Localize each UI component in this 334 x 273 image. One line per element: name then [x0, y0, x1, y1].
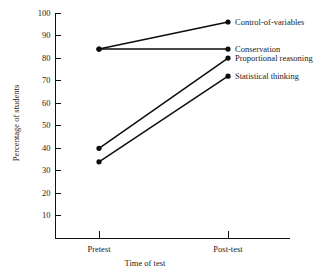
y-tick-label: 10 [0, 211, 51, 220]
line-chart: 102030405060708090100 PretestPost-test C… [0, 0, 334, 273]
data-point-marker [225, 56, 230, 61]
y-tick-label: 60 [0, 99, 51, 108]
series-lines [96, 19, 230, 164]
series-label: Control-of-variables [235, 18, 304, 27]
plot-area [0, 0, 334, 273]
data-point-marker [225, 74, 230, 79]
y-tick-label: 80 [0, 54, 51, 63]
y-tick-label: 100 [0, 9, 51, 18]
y-axis-title: Percentage of students [11, 68, 21, 178]
y-tick-label: 70 [0, 76, 51, 85]
x-tick-label: Pretest [87, 245, 110, 254]
y-tick-label: 40 [0, 144, 51, 153]
series-line [99, 76, 228, 162]
y-tick-label: 90 [0, 31, 51, 40]
series-line [99, 58, 228, 148]
x-axis-title: Time of test [0, 258, 290, 268]
data-point-marker [225, 46, 230, 51]
series-line [99, 22, 228, 49]
series-label: Conservation [235, 45, 280, 54]
data-point-marker [96, 46, 101, 51]
series-label: Statistical thinking [235, 72, 299, 81]
series-label: Proportional reasoning [235, 54, 313, 63]
y-tick-label: 30 [0, 166, 51, 175]
y-tick-label: 50 [0, 121, 51, 130]
x-tick-label: Post-test [213, 245, 242, 254]
data-point-marker [96, 159, 101, 164]
y-tick-label: 20 [0, 189, 51, 198]
data-point-marker [96, 146, 101, 151]
data-point-marker [225, 19, 230, 24]
